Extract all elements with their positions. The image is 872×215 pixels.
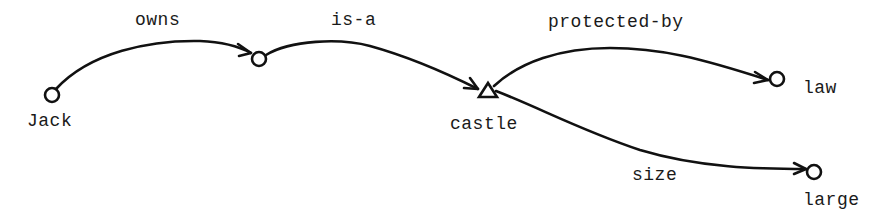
node-law-circle-icon [770, 72, 784, 86]
edge-label-protected-by: protected-by [548, 13, 684, 31]
edge-size [496, 91, 806, 174]
edge-label-owns: owns [135, 11, 180, 29]
node-large-circle-icon [807, 165, 821, 179]
semantic-network-diagram [0, 0, 872, 215]
edge-is-a [266, 41, 478, 89]
node-unnamed-circle-icon [252, 52, 266, 66]
node-label-law: law [803, 79, 837, 97]
edge-protected-by [494, 48, 768, 86]
edge-owns [56, 41, 251, 89]
node-label-large: large [803, 191, 860, 209]
node-label-jack: Jack [27, 112, 72, 130]
arrowhead-icon [238, 44, 251, 56]
edge-label-size: size [632, 166, 677, 184]
node-jack-circle-icon [45, 88, 59, 102]
edge-label-is-a: is-a [331, 11, 376, 29]
node-label-castle: castle [450, 115, 518, 133]
